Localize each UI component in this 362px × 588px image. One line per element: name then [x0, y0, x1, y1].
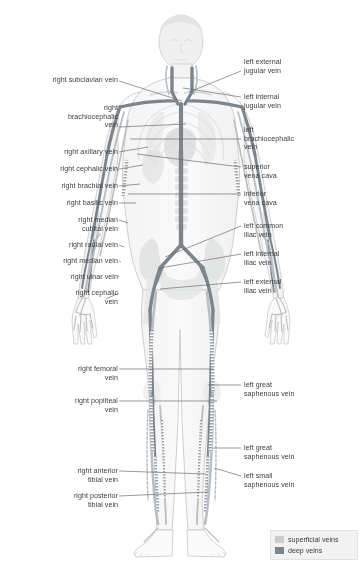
left-internal-jugular-vein-label: left internal jugular vein: [244, 93, 356, 110]
right-posterior-tibial-vein-label: right posterior tibial vein: [8, 492, 118, 509]
right-cephalic-vein-lower-label: right cephalic vein: [8, 289, 118, 306]
legend-superficial-swatch: [275, 536, 284, 543]
legend-superficial-label: superficial veins: [288, 536, 338, 544]
right-basilic-vein-label: right basilic vein: [8, 199, 118, 208]
right-cephalic-vein-upper-label: right cephalic vein: [8, 165, 118, 174]
left-small-saphenous-vein-label: left small saphenous vein: [244, 472, 356, 489]
legend-superficial: superficial veins: [275, 534, 353, 545]
right-axillary-vein-label: right axillary vein: [8, 148, 118, 157]
right-brachiocephalic-vein-label: right brachiocephalic vein: [8, 104, 118, 130]
right-median-vein-label: right median vein: [8, 257, 118, 266]
inferior-vena-cava-label: inferior vena cava: [244, 190, 356, 207]
left-brachiocephalic-vein-label: left brachiocephalic vein: [244, 126, 356, 152]
legend-deep-swatch: [275, 547, 284, 554]
legend: superficial veins deep veins: [270, 530, 358, 560]
left-external-jugular-vein-label: left external jugular vein: [244, 58, 356, 75]
right-subclavian-vein-label: right subclavian vein: [8, 76, 118, 85]
left-internal-iliac-vein-label: left internal iliac vein: [244, 250, 356, 267]
right-anterior-tibial-vein-label: right anterior tibial vein: [8, 467, 118, 484]
right-median-cubital-vein-label: right median cubital vein: [8, 216, 118, 233]
right-femoral-vein-label: right femoral vein: [8, 365, 118, 382]
right-radial-vein-label: right radial vein: [8, 241, 118, 250]
right-ulnar-vein-label: right ulnar vein: [8, 273, 118, 282]
right-popliteal-vein-label: right popliteal vein: [8, 397, 118, 414]
left-great-saphenous-vein-upper-label: left great saphenous vein: [244, 381, 356, 398]
left-great-saphenous-vein-lower-label: left great saphenous vein: [244, 444, 356, 461]
superior-vena-cava-label: superior vena cava: [244, 163, 356, 180]
vein-diagram-page: right subclavian veinright brachiocephal…: [0, 0, 362, 588]
left-external-iliac-vein-label: left external iliac vein: [244, 278, 356, 295]
legend-deep-label: deep veins: [288, 547, 322, 555]
legend-deep: deep veins: [275, 545, 353, 556]
right-brachial-vein-label: right brachial vein: [8, 182, 118, 191]
left-common-iliac-vein-label: left common iliac vein: [244, 222, 356, 239]
